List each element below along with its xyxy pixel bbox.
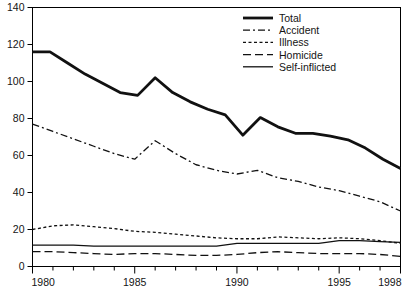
line-chart: 020406080100120140 19801985199019951998 … (0, 0, 415, 291)
y-tick-label: 140 (7, 1, 25, 13)
x-tick-label: 1980 (32, 276, 56, 288)
legend-label-self-inflicted: Self-inflicted (279, 61, 336, 73)
x-tick-label: 1998 (378, 276, 402, 288)
x-tick-label: 1995 (327, 276, 351, 288)
legend-label-homicide: Homicide (279, 49, 323, 61)
y-tick-label: 120 (7, 38, 25, 50)
legend-label-accident: Accident (279, 24, 319, 36)
x-tick-label: 1990 (225, 276, 249, 288)
chart-background (0, 0, 415, 291)
y-tick-label: 0 (19, 260, 25, 272)
legend-label-total: Total (279, 12, 301, 24)
y-tick-label: 100 (7, 75, 25, 87)
chart-canvas: 020406080100120140 19801985199019951998 … (0, 0, 415, 291)
x-tick-label: 1985 (123, 276, 147, 288)
y-tick-label: 40 (13, 186, 25, 198)
legend-label-illness: Illness (279, 36, 309, 48)
y-tick-label: 60 (13, 149, 25, 161)
y-tick-label: 20 (13, 223, 25, 235)
y-tick-label: 80 (13, 112, 25, 124)
